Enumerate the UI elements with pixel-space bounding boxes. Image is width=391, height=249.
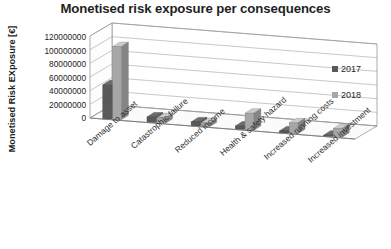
legend-label-2018: 2018 [341, 90, 361, 100]
chart-container: Monetised risk exposure per consequences… [0, 0, 391, 249]
legend-swatch-2017 [332, 66, 338, 72]
legend-item-2017: 2017 [332, 64, 361, 74]
bar-2018 [245, 109, 261, 131]
legend-swatch-2018 [332, 92, 338, 98]
plot-area [0, 0, 391, 249]
bar-2018 [113, 42, 129, 120]
legend-label-2017: 2017 [341, 64, 361, 74]
legend-item-2018: 2018 [332, 90, 361, 100]
